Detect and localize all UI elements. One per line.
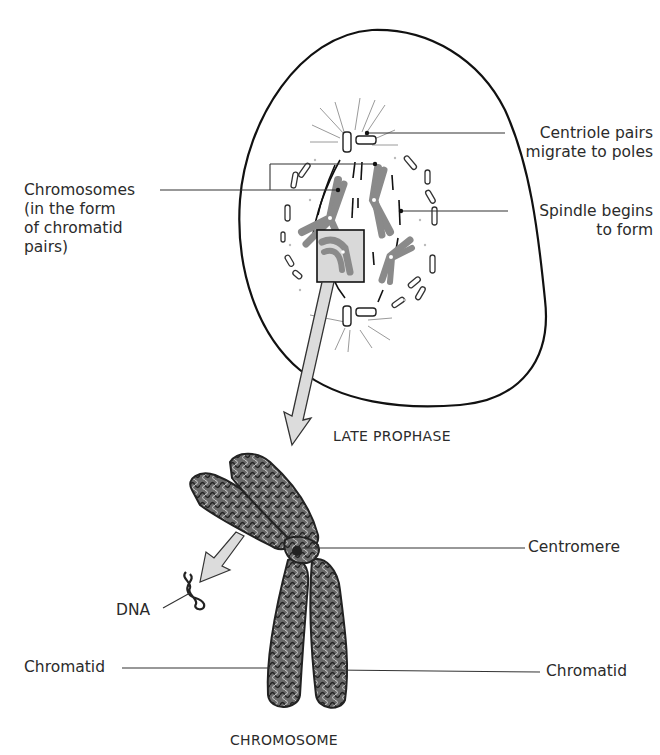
centromere-dot <box>372 198 376 202</box>
leader-dot <box>336 188 340 192</box>
centriole-pair-top <box>343 132 376 152</box>
aster-top <box>310 98 398 145</box>
centromere-dot <box>389 255 393 259</box>
label-spindle: Spindle begins to form <box>512 202 653 240</box>
leader-dot <box>365 131 369 135</box>
leader-dot <box>373 162 377 166</box>
centromere-knob <box>292 546 302 556</box>
label-centromere: Centromere <box>528 538 620 557</box>
centromere-dot <box>328 216 332 220</box>
leader-dot <box>399 209 403 213</box>
label-chromatid-right: Chromatid <box>546 662 627 681</box>
caption-chromosome: CHROMOSOME <box>230 731 338 750</box>
chromosome-detailed <box>190 454 347 708</box>
caption-late-prophase: LATE PROPHASE <box>333 427 451 446</box>
label-chromatid-left: Chromatid <box>24 658 105 677</box>
magnified-region-box <box>317 230 364 282</box>
label-centriole-pairs: Centriole pairs migrate to poles <box>510 124 653 162</box>
label-chromosomes: Chromosomes (in the form of chromatid pa… <box>24 181 135 257</box>
dna-zoom-arrow <box>200 532 244 582</box>
mitosis-diagram <box>0 0 660 755</box>
centriole-pair-bottom <box>343 306 376 326</box>
label-dna: DNA <box>116 601 150 620</box>
